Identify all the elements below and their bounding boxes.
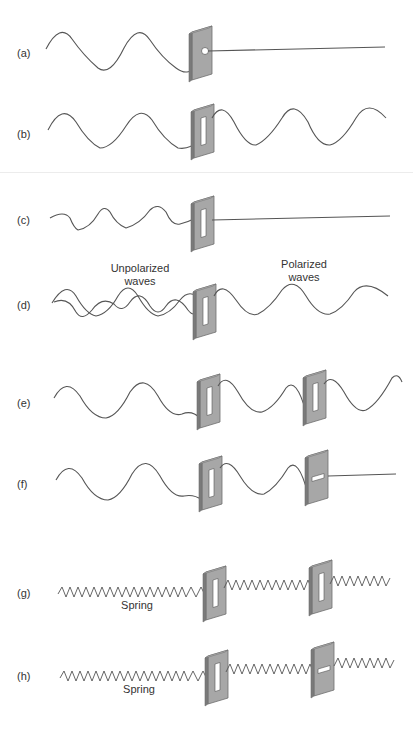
- label-g: (g): [17, 587, 30, 599]
- label-a: (a): [17, 47, 30, 59]
- caption-polarized-line1: Polarized: [264, 258, 344, 271]
- label-b: (b): [17, 128, 30, 140]
- caption-spring-g: Spring: [112, 599, 162, 612]
- row-a: [46, 26, 385, 82]
- label-c: (c): [17, 214, 30, 226]
- caption-unpolarized-line1: Unpolarized: [100, 262, 180, 275]
- row-g: [58, 560, 390, 622]
- caption-polarized: Polarized waves: [264, 258, 344, 284]
- row-b: [48, 104, 386, 160]
- label-h: (h): [17, 670, 30, 682]
- label-d: (d): [17, 299, 30, 311]
- row-d: [52, 284, 388, 340]
- caption-unpolarized-line2: waves: [100, 275, 180, 288]
- row-e: [54, 370, 402, 430]
- polarization-diagram: [0, 0, 413, 735]
- label-e: (e): [17, 397, 30, 409]
- caption-spring-h: Spring: [114, 683, 164, 696]
- caption-polarized-line2: waves: [264, 271, 344, 284]
- caption-unpolarized: Unpolarized waves: [100, 262, 180, 288]
- label-f: (f): [17, 478, 27, 490]
- row-f: [56, 450, 396, 512]
- row-c: [50, 196, 390, 252]
- row-h: [60, 642, 394, 706]
